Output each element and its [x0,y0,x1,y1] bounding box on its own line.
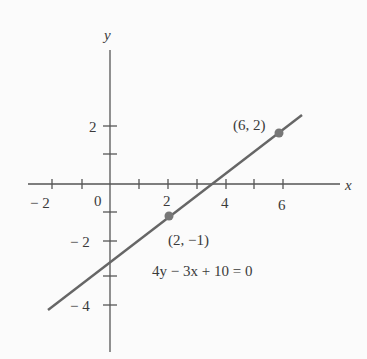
y-tick-label-m4: − 4 [70,298,90,314]
line-4y-3x-10 [48,115,302,310]
x-tick-label-m2: − 2 [30,195,50,211]
x-axis-label: x [344,177,352,193]
coordinate-plane: y x − 2 0 2 4 6 2 − 2 − 4 (6, 2) (2, −1)… [0,0,367,359]
y-tick-label-2: 2 [89,119,97,135]
graph-figure: y x − 2 0 2 4 6 2 − 2 − 4 (6, 2) (2, −1)… [0,0,367,359]
equation-label: 4y − 3x + 10 = 0 [152,263,252,279]
x-tick-label-0: 0 [94,193,102,209]
point-2-m1 [165,212,174,221]
point-6-2 [275,129,284,138]
point-label-2-m1: (2, −1) [168,232,209,249]
y-axis-label: y [102,27,111,43]
x-tick-label-2: 2 [163,193,171,209]
y-tick-label-m2: − 2 [70,234,90,250]
point-label-6-2: (6, 2) [233,117,266,134]
x-tick-label-6: 6 [278,197,286,213]
x-tick-label-4: 4 [221,195,229,211]
